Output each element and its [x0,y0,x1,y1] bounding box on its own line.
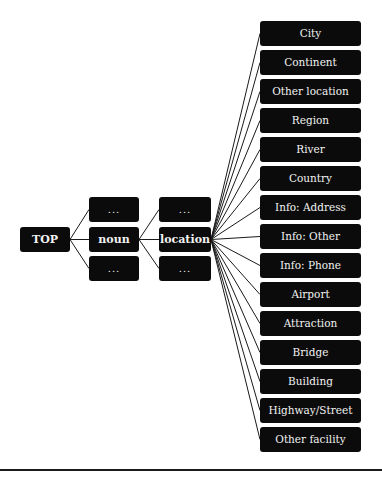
leaf-bridge: Bridge [260,340,361,365]
node-top: TOP [20,227,70,252]
leaf-highway-street: Highway/Street [260,398,361,423]
leaf-country: Country [260,166,361,191]
node-noun: noun [89,227,139,252]
leaf-other-location: Other location [260,79,361,104]
node-noun-sibling-below: ... [89,256,139,281]
leaf-info-phone: Info: Phone [260,253,361,278]
leaf-region: Region [260,108,361,133]
leaf-info-address: Info: Address [260,195,361,220]
bottom-rule-divider [0,469,382,471]
leaf-info-other: Info: Other [260,224,361,249]
leaf-attraction: Attraction [260,311,361,336]
node-location-sibling-below: ... [159,256,211,281]
leaf-river: River [260,137,361,162]
node-noun-sibling-above: ... [89,197,139,222]
leaf-city: City [260,21,361,46]
node-location: location [159,227,211,252]
node-location-sibling-above: ... [159,197,211,222]
leaf-continent: Continent [260,50,361,75]
taxonomy-tree-diagram: TOP ... noun ... ... location ... City C… [0,0,382,478]
leaf-airport: Airport [260,282,361,307]
leaf-other-facility: Other facility [260,427,361,452]
leaf-building: Building [260,369,361,394]
